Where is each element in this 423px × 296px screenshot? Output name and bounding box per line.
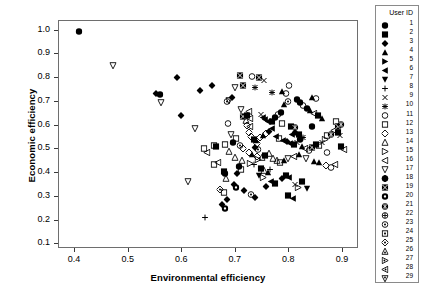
data-point — [110, 55, 117, 73]
data-point — [278, 81, 285, 99]
data-point — [240, 138, 247, 156]
x-tick-mark — [181, 248, 182, 252]
data-point — [251, 187, 258, 205]
data-point — [303, 148, 310, 166]
x-tick-label: 0.9 — [327, 254, 357, 264]
data-point — [191, 118, 198, 136]
data-point — [178, 105, 185, 123]
data-point — [233, 177, 240, 195]
data-point — [293, 89, 300, 107]
legend-item-label: 29 — [406, 271, 413, 281]
data-point — [285, 185, 292, 203]
data-point — [285, 75, 292, 93]
y-tick-label: 1.0 — [24, 24, 50, 34]
data-point — [226, 141, 233, 159]
y-tick-label: 0.8 — [24, 71, 50, 81]
data-point — [255, 67, 262, 85]
x-tick-label: 0.7 — [220, 254, 250, 264]
x-tick-label: 0.6 — [166, 254, 196, 264]
data-point — [203, 142, 210, 160]
legend-marker-icon — [382, 268, 389, 286]
data-point — [269, 82, 276, 100]
data-point — [249, 66, 256, 84]
data-point — [312, 88, 319, 106]
x-tick-label: 0.8 — [273, 254, 303, 264]
data-point — [247, 153, 254, 171]
scatter-chart-figure: Economic efficiency Environmental effici… — [0, 0, 423, 296]
y-tick-label: 0.2 — [24, 214, 50, 224]
x-tick-label: 0.5 — [113, 254, 143, 264]
data-point — [309, 116, 316, 134]
data-point — [158, 92, 165, 110]
data-point — [289, 124, 296, 142]
data-point — [202, 207, 209, 225]
data-point — [338, 114, 345, 132]
data-point — [245, 101, 252, 119]
y-axis-title: Economic efficiency — [26, 61, 37, 211]
legend-title: User ID — [389, 9, 413, 16]
y-tick-label: 0.3 — [24, 190, 50, 200]
data-point — [209, 75, 216, 93]
data-point — [256, 127, 263, 145]
data-point — [331, 154, 338, 172]
data-point — [196, 80, 203, 98]
data-point — [323, 142, 330, 160]
legend-item[interactable]: 29 — [376, 272, 418, 281]
y-tick-label: 0.1 — [24, 237, 50, 247]
legend-box: User ID 12345678910111213141516171819202… — [375, 5, 419, 283]
x-tick-mark — [128, 248, 129, 252]
data-point — [75, 21, 82, 39]
x-tick-label: 0.4 — [59, 254, 89, 264]
data-point — [174, 67, 181, 85]
data-point — [340, 139, 347, 157]
y-tick-label: 0.9 — [24, 47, 50, 57]
y-tick-label: 0.6 — [24, 119, 50, 129]
data-point — [238, 99, 245, 117]
x-axis-title: Environmental efficiency — [58, 272, 358, 283]
data-point — [296, 144, 303, 162]
data-point — [222, 198, 229, 216]
x-tick-mark — [74, 248, 75, 252]
x-tick-mark — [342, 248, 343, 252]
y-tick-label: 0.7 — [24, 95, 50, 105]
x-tick-mark — [288, 248, 289, 252]
data-point — [184, 171, 191, 189]
x-tick-mark — [235, 248, 236, 252]
y-tick-label: 0.5 — [24, 142, 50, 152]
data-point — [240, 75, 247, 93]
data-point — [210, 154, 217, 172]
data-point — [240, 180, 247, 198]
data-point — [299, 171, 306, 189]
y-tick-label: 0.4 — [24, 166, 50, 176]
plot-data-area — [58, 20, 358, 248]
data-point — [267, 159, 274, 177]
